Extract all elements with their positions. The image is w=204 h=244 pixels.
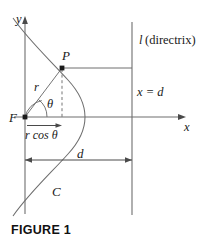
directrix-note-label: (directrix) [145, 33, 196, 47]
d-dimension-arrowhead-right [125, 157, 132, 162]
directrix-name-label: l [139, 33, 143, 47]
directrix-equation-label: x = d [136, 85, 164, 99]
y-axis-label: y [14, 12, 22, 26]
figure-caption: FIGURE 1 [11, 223, 71, 237]
radius-label-r: r [34, 80, 39, 94]
x-axis-label: x [183, 120, 190, 134]
point-p-dot [60, 66, 65, 71]
parabola-polar-diagram: y x F P r θ r cos θ d C l (directrix) x … [0, 0, 204, 244]
theta-angle-arc [25, 101, 42, 118]
theta-label: θ [47, 97, 53, 111]
point-label-p: P [61, 48, 70, 63]
focal-radius-segment [25, 68, 62, 117]
focus-label-f: F [8, 110, 18, 125]
figure-container: y x F P r θ r cos θ d C l (directrix) x … [0, 0, 204, 244]
theta-angle-arc-2 [38, 99, 47, 117]
distance-label-d: d [77, 146, 84, 161]
y-axis-arrowhead [22, 16, 28, 24]
r-cos-theta-label: r cos θ [25, 128, 58, 142]
curve-label-c: C [52, 184, 61, 199]
d-dimension-arrowhead-left [25, 157, 32, 162]
focus-point-dot [23, 115, 28, 120]
